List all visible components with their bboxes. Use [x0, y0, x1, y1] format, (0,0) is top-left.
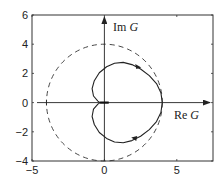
y-tick-label: 4	[22, 38, 28, 50]
im-axis-label: Im G	[113, 20, 138, 34]
plot-frame-rect	[32, 15, 213, 161]
y-tick-label: −4	[15, 155, 28, 167]
y-tick-label: 2	[22, 67, 28, 79]
x-tick-label: 0	[101, 164, 107, 176]
y-tick-label: −2	[15, 126, 28, 138]
y-tick-label: 6	[22, 9, 28, 21]
plot-frame	[32, 15, 213, 161]
re-axis-label: Re G	[174, 108, 199, 122]
axis-labels: Im GRe G	[113, 20, 199, 122]
y-tick-label: 0	[22, 97, 28, 109]
nyquist-chart: −505−4−20246 Im GRe G	[0, 0, 222, 189]
complex-axes	[37, 17, 210, 161]
x-tick-label: 5	[174, 164, 180, 176]
